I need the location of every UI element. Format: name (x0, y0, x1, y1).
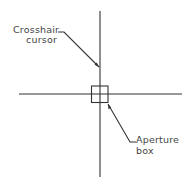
crosshair-leader-line (58, 32, 99, 67)
crosshair-diagram: Crosshair cursor Aperture box (0, 0, 189, 184)
aperture-label-line1: Aperture (136, 134, 179, 145)
crosshair-label-line2: cursor (26, 34, 57, 45)
aperture-label-line2: box (136, 145, 154, 156)
aperture-leader-line (108, 104, 136, 142)
